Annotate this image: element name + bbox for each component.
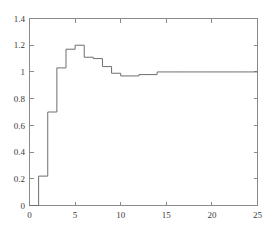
y-axis-tick-labels: 1.4 1.2 1 0.8 0.6 0.4 0.2 0 [14,14,26,211]
y-tick-label: 0.2 [14,174,25,184]
y-tick-label: 1 [21,67,26,77]
y-tick-label: 0 [21,201,26,211]
x-tick-label: 15 [162,210,172,220]
x-tick-label: 5 [73,210,78,220]
step-response-line [30,45,258,205]
y-tick-label: 1.4 [14,14,26,24]
y-tick-label: 0.6 [14,121,26,131]
y-tick-label: 0.8 [14,94,26,104]
y-axis-ticks [30,19,258,206]
data-series-group [30,45,258,205]
x-tick-label: 25 [253,210,263,220]
chart-figure: 1.4 1.2 1 0.8 0.6 0.4 0.2 0 0 5 10 15 20… [0,0,280,228]
y-tick-label: 0.4 [14,147,26,157]
x-tick-label: 10 [116,210,126,220]
x-axis-ticks [30,19,258,206]
step-line-chart: 1.4 1.2 1 0.8 0.6 0.4 0.2 0 0 5 10 15 20… [0,0,280,228]
x-tick-label: 0 [27,210,32,220]
y-tick-label: 1.2 [14,40,25,50]
plot-frame [30,19,258,206]
x-axis-tick-labels: 0 5 10 15 20 25 [27,210,262,220]
x-tick-label: 20 [207,210,217,220]
